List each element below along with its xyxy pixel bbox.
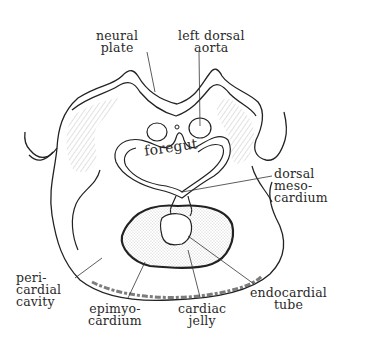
label-line: plate: [96, 42, 138, 54]
label-left-dorsal-aorta: left dorsal aorta: [178, 30, 245, 54]
diagram-canvas: neural plate left dorsal aorta foregut d…: [0, 0, 373, 356]
label-line: cardium: [274, 192, 328, 204]
endocardial-tube: [161, 214, 192, 245]
label-line: cavity: [16, 296, 61, 308]
label-epimyocardium: epimyo- cardium: [88, 303, 142, 327]
label-line: cardium: [88, 315, 142, 327]
label-pericardial-cavity: peri- cardial cavity: [16, 272, 61, 308]
label-endocardial-tube: endocardial tube: [250, 287, 327, 311]
label-line: jelly: [178, 315, 226, 327]
mesoderm-left: [67, 98, 119, 172]
label-line: tube: [250, 299, 327, 311]
label-neural-plate: neural plate: [96, 30, 138, 54]
label-cardiac-jelly: cardiac jelly: [178, 303, 226, 327]
label-dorsal-mesocardium: dorsal meso- cardium: [274, 168, 328, 204]
label-line: aorta: [178, 42, 245, 54]
right-dorsal-aorta: [147, 123, 167, 141]
ventral-wall: [92, 276, 262, 297]
